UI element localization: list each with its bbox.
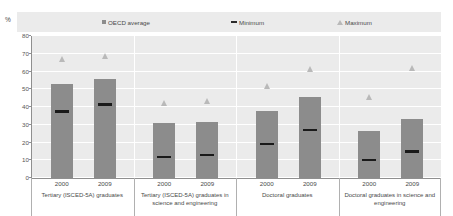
x-axis-year-label: 2009 bbox=[85, 180, 125, 187]
x-axis-year-label: 2000 bbox=[349, 180, 389, 187]
bar-slot bbox=[153, 36, 175, 178]
bar-slot bbox=[401, 36, 423, 178]
x-axis-category-label: Doctoral graduates bbox=[239, 192, 336, 200]
y-axis-tick-label: 30 bbox=[3, 122, 29, 128]
bar-slot bbox=[256, 36, 278, 178]
axis-band-edge bbox=[440, 178, 441, 216]
y-axis-tick-label: 40 bbox=[3, 104, 29, 110]
x-axis-year-label: 2000 bbox=[42, 180, 82, 187]
bar-oecd-average bbox=[299, 97, 321, 178]
x-axis-category-label: Tertiary (ISCED-5A) graduates in science… bbox=[137, 192, 234, 207]
bar-slot bbox=[299, 36, 321, 178]
plot-area bbox=[31, 36, 441, 178]
y-axis-unit-label: % bbox=[5, 16, 11, 23]
minimum-marker bbox=[405, 150, 419, 152]
minimum-marker bbox=[98, 103, 112, 105]
y-axis-tick-label: 60 bbox=[3, 69, 29, 75]
y-axis-tick-label: 0 bbox=[3, 175, 29, 181]
minimum-marker bbox=[55, 110, 69, 112]
maximum-marker bbox=[307, 66, 313, 72]
bar-slot bbox=[358, 36, 380, 178]
chart-container: OECD average Minimum Maximum % 807060504… bbox=[0, 0, 453, 216]
legend-label-oecd-average: OECD average bbox=[108, 19, 150, 26]
y-axis-ticks: 80706050403020100 bbox=[0, 36, 29, 178]
bar-oecd-average bbox=[196, 122, 218, 178]
legend-item-minimum: Minimum bbox=[231, 19, 264, 26]
minimum-marker bbox=[260, 143, 274, 145]
y-axis-tick-mark bbox=[29, 71, 31, 72]
x-axis: 20002009200020092000200920002009 Tertiar… bbox=[31, 178, 441, 216]
minimum-marker bbox=[303, 129, 317, 131]
x-axis-year-label: 2009 bbox=[187, 180, 227, 187]
maximum-marker bbox=[59, 56, 65, 62]
chart-legend: OECD average Minimum Maximum bbox=[17, 12, 441, 32]
bar-slot bbox=[51, 36, 73, 178]
group-separator bbox=[134, 178, 135, 216]
minimum-marker bbox=[200, 154, 214, 156]
y-axis-tick-mark bbox=[29, 124, 31, 125]
maximum-marker bbox=[264, 83, 270, 89]
group-separator bbox=[339, 178, 340, 216]
maximum-marker bbox=[161, 100, 167, 106]
y-axis-tick-mark bbox=[29, 142, 31, 143]
bar-oecd-average bbox=[401, 119, 423, 178]
legend-label-maximum: Maximum bbox=[345, 19, 372, 26]
axis-band-edge bbox=[31, 178, 32, 216]
y-axis-tick-label: 10 bbox=[3, 157, 29, 163]
y-axis-tick-mark bbox=[29, 35, 31, 36]
group-separator-plot bbox=[134, 36, 135, 178]
x-axis-year-label: 2009 bbox=[392, 180, 432, 187]
maximum-marker bbox=[204, 98, 210, 104]
dash-marker-icon bbox=[231, 21, 237, 23]
y-axis-tick-label: 50 bbox=[3, 86, 29, 92]
group-separator bbox=[236, 178, 237, 216]
legend-item-oecd-average: OECD average bbox=[102, 19, 150, 26]
y-axis-tick-mark bbox=[29, 159, 31, 160]
bar-oecd-average bbox=[51, 84, 73, 178]
y-axis-tick-mark bbox=[29, 88, 31, 89]
bar-slot bbox=[94, 36, 116, 178]
y-axis-tick-mark bbox=[29, 53, 31, 54]
y-axis-line bbox=[31, 36, 32, 178]
bar-oecd-average bbox=[94, 79, 116, 178]
triangle-marker-icon bbox=[337, 20, 343, 25]
bar-oecd-average bbox=[358, 131, 380, 178]
x-axis-year-label: 2000 bbox=[247, 180, 287, 187]
bar-oecd-average bbox=[153, 123, 175, 178]
x-axis-category-label: Doctoral graduates in science and engine… bbox=[342, 192, 439, 207]
minimum-marker bbox=[362, 159, 376, 161]
y-axis-tick-label: 20 bbox=[3, 140, 29, 146]
y-axis-tick-mark bbox=[29, 106, 31, 107]
group-separator-plot bbox=[236, 36, 237, 178]
x-axis-year-label: 2000 bbox=[144, 180, 184, 187]
minimum-marker bbox=[157, 156, 171, 158]
maximum-marker bbox=[409, 65, 415, 71]
legend-label-minimum: Minimum bbox=[239, 19, 264, 26]
y-axis-tick-label: 80 bbox=[3, 33, 29, 39]
maximum-marker bbox=[102, 53, 108, 59]
y-axis-tick-label: 70 bbox=[3, 51, 29, 57]
legend-item-maximum: Maximum bbox=[337, 19, 372, 26]
bar-slot bbox=[196, 36, 218, 178]
x-axis-year-label: 2009 bbox=[290, 180, 330, 187]
square-marker-icon bbox=[102, 20, 106, 24]
x-axis-category-label: Tertiary (ISCED-5A) graduates bbox=[34, 192, 131, 200]
maximum-marker bbox=[366, 94, 372, 100]
group-separator-plot bbox=[339, 36, 340, 178]
